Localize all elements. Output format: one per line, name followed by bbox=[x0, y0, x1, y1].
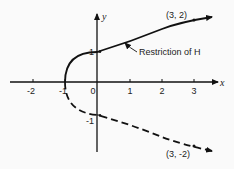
y-axis-label: y bbox=[101, 11, 107, 22]
svg-text:2: 2 bbox=[159, 86, 164, 96]
svg-text:-1: -1 bbox=[86, 116, 94, 126]
point-3-2 bbox=[193, 19, 196, 22]
point-label-3-2: (3, 2) bbox=[166, 10, 187, 20]
svg-text:0: 0 bbox=[90, 86, 95, 96]
restriction-label: Restriction of H bbox=[139, 47, 201, 57]
point-0-1 bbox=[99, 50, 102, 53]
point-0-neg1 bbox=[99, 114, 102, 117]
svg-text:1: 1 bbox=[127, 86, 132, 96]
restriction-pointer bbox=[125, 43, 137, 52]
parabola-diagram: x y -2 -1 0 1 2 3 1 -1 (3, 2) Restrictio… bbox=[0, 0, 234, 169]
point-3-neg2 bbox=[193, 145, 196, 148]
point-label-3-neg2: (3, -2) bbox=[166, 149, 190, 159]
svg-text:-2: -2 bbox=[27, 86, 35, 96]
svg-text:3: 3 bbox=[191, 86, 196, 96]
x-axis-label: x bbox=[219, 77, 225, 88]
x-tick-labels: -2 -1 0 1 2 3 bbox=[27, 86, 197, 96]
